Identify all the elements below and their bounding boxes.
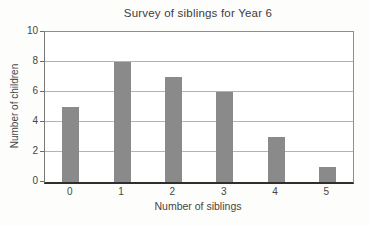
x-tick-label-1: 1 [95, 186, 146, 198]
bar-1 [114, 62, 131, 182]
y-tick-label-2: 2 [12, 145, 38, 157]
x-axis-title: Number of siblings [44, 200, 352, 212]
y-tick-label-4: 4 [12, 115, 38, 127]
x-tick-label-3: 3 [198, 186, 249, 198]
y-tick-label-8: 8 [12, 55, 38, 67]
y-tick-mark-8 [40, 61, 44, 62]
x-tick-label-4: 4 [249, 186, 300, 198]
bar-2 [165, 77, 182, 182]
x-tick-label-5: 5 [301, 186, 352, 198]
y-tick-label-0: 0 [12, 175, 38, 187]
y-tick-mark-0 [40, 181, 44, 182]
bar-0 [62, 107, 79, 182]
y-tick-mark-10 [40, 31, 44, 32]
y-tick-label-10: 10 [12, 25, 38, 37]
x-tick-label-2: 2 [147, 186, 198, 198]
bar-3 [216, 92, 233, 182]
plot-area [44, 31, 354, 184]
bars-layer [45, 32, 353, 182]
bar-5 [319, 167, 336, 182]
y-tick-mark-6 [40, 91, 44, 92]
y-tick-mark-2 [40, 151, 44, 152]
y-axis-title: Number of children [9, 64, 20, 148]
y-tick-mark-4 [40, 121, 44, 122]
x-tick-label-0: 0 [44, 186, 95, 198]
y-tick-label-6: 6 [12, 85, 38, 97]
chart-title: Survey of siblings for Year 6 [44, 7, 352, 19]
bar-4 [268, 137, 285, 182]
